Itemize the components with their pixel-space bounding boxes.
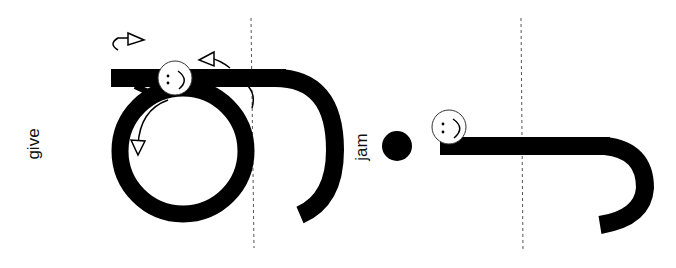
glyph-jam — [432, 110, 645, 225]
letterforms — [0, 0, 676, 268]
label-jam: jam — [352, 133, 372, 160]
direction-arrow-icon — [131, 140, 145, 155]
dot-mark — [382, 131, 412, 161]
dashed-guide-line-right — [521, 18, 523, 252]
direction-arrow-icon — [199, 52, 214, 66]
glyph-give — [111, 33, 335, 215]
handwriting-diagram: give jam — [0, 0, 676, 268]
direction-arrow-icon — [128, 33, 144, 45]
label-give: give — [24, 128, 44, 159]
direction-arrow-icon — [113, 38, 128, 50]
smiley-start-marker-icon — [158, 61, 192, 95]
direction-arrow-icon — [248, 86, 253, 108]
smiley-start-marker-icon — [432, 110, 466, 144]
